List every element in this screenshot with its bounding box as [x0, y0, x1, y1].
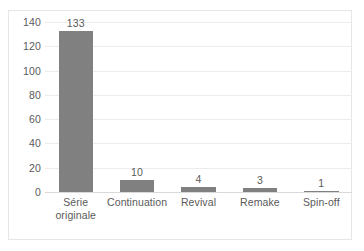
bar[interactable]	[243, 188, 277, 192]
bar-slot: 4	[168, 22, 229, 192]
x-tick-label-line: Continuation	[107, 196, 167, 208]
axis-baseline	[45, 192, 352, 193]
x-tick-label: Sérieoriginale	[45, 196, 106, 222]
x-axis: SérieoriginaleContinuationRevivalRemakeS…	[45, 196, 352, 222]
bar-value-label: 10	[106, 166, 167, 178]
x-tick-label: Continuation	[106, 196, 167, 222]
bar-slot: 3	[229, 22, 290, 192]
bar-slot: 1	[291, 22, 352, 192]
bar-slot: 133	[45, 22, 106, 192]
x-tick-label-line: Série	[63, 196, 88, 208]
bar-value-label: 1	[291, 177, 352, 189]
y-axis: 140120100806040200	[8, 22, 41, 192]
bar-value-label: 3	[229, 174, 290, 186]
y-tick-label: 120	[23, 40, 41, 52]
bar[interactable]	[181, 187, 215, 192]
y-tick-label: 100	[23, 65, 41, 77]
x-tick-label-line: originale	[45, 209, 106, 222]
x-tick-label-line: Spin-off	[303, 196, 340, 208]
y-tick-label: 60	[29, 113, 41, 125]
x-tick-label-line: Remake	[240, 196, 280, 208]
bar[interactable]	[304, 191, 338, 193]
y-tick-label: 0	[35, 186, 41, 198]
x-tick-label-line: Revival	[181, 196, 216, 208]
bar-chart: 140120100806040200 13310431 Sérieorigina…	[0, 0, 364, 251]
y-tick-label: 80	[29, 89, 41, 101]
bar-value-label: 4	[168, 173, 229, 185]
bars-layer: 13310431	[45, 22, 352, 192]
bar-value-label: 133	[45, 17, 106, 29]
x-tick-label: Spin-off	[291, 196, 352, 222]
bar[interactable]	[120, 180, 154, 192]
bar-slot: 10	[106, 22, 167, 192]
bar[interactable]	[59, 31, 93, 193]
y-tick-label: 40	[29, 137, 41, 149]
x-tick-label: Remake	[229, 196, 290, 222]
x-tick-label: Revival	[168, 196, 229, 222]
y-tick-label: 20	[29, 162, 41, 174]
y-tick-label: 140	[23, 16, 41, 28]
